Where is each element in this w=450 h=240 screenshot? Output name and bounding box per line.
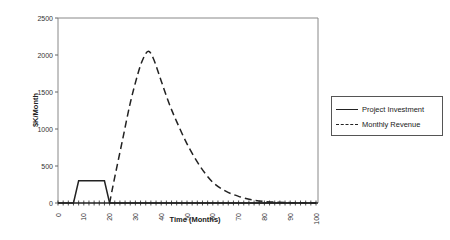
y-tick-label: 2500 <box>37 15 53 22</box>
y-tick-label: 2000 <box>37 52 53 59</box>
x-tick-label: 0 <box>55 213 62 217</box>
y-tick-label: 500 <box>41 163 53 170</box>
y-axis-title: $K/Month <box>31 93 40 128</box>
x-tick-label: 100 <box>313 213 320 225</box>
plot-area <box>58 18 318 203</box>
series-project-investment <box>58 181 316 203</box>
legend: Project Investment Monthly Revenue <box>331 96 443 136</box>
x-tick-label: 40 <box>158 213 165 221</box>
legend-item-monthly-revenue: Monthly Revenue <box>336 118 420 130</box>
series-layer <box>58 51 316 203</box>
x-tick-label: 10 <box>80 213 87 221</box>
y-tick-label: 0 <box>49 200 53 207</box>
legend-item-project-investment: Project Investment <box>336 103 424 115</box>
x-axis-title: Time (Months) <box>169 215 221 224</box>
x-tick-label: 80 <box>261 213 268 221</box>
dashed-line-icon <box>336 124 358 125</box>
legend-label: Project Investment <box>362 105 424 114</box>
solid-line-icon <box>336 109 358 110</box>
y-axis: 05001000150020002500 <box>37 15 58 207</box>
series-monthly-revenue <box>110 51 316 203</box>
x-tick-label: 30 <box>132 213 139 221</box>
x-tick-label: 20 <box>106 213 113 221</box>
legend-label: Monthly Revenue <box>362 120 420 129</box>
x-tick-label: 70 <box>235 213 242 221</box>
x-tick-label: 90 <box>287 213 294 221</box>
